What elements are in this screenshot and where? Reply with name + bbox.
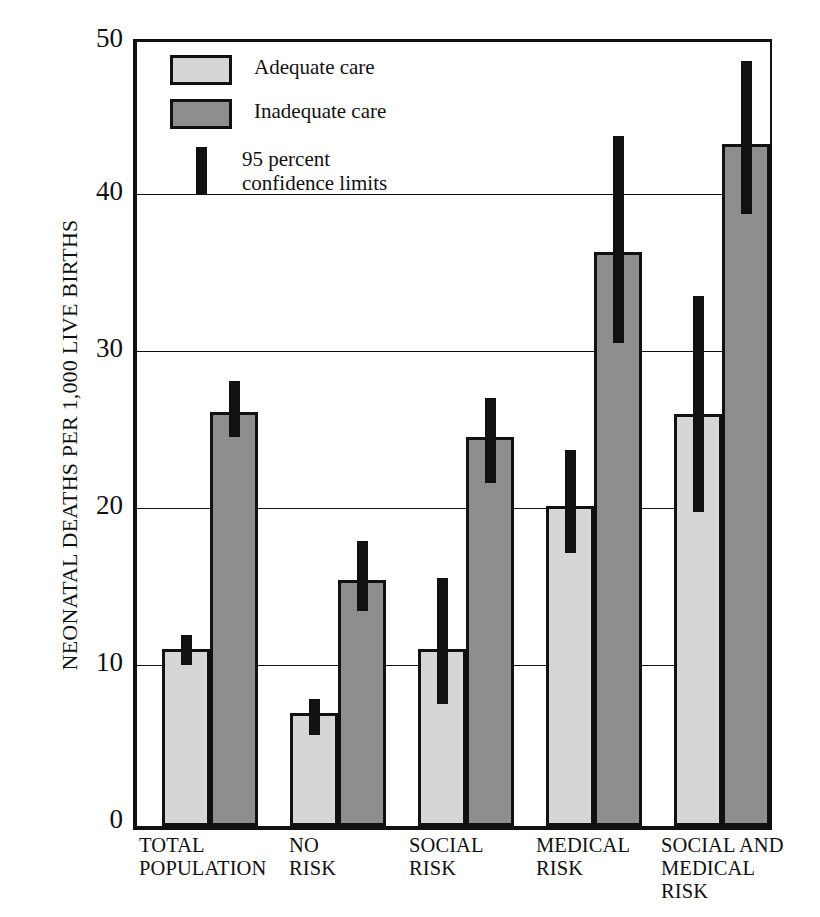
y-tick-50: 50 (96, 25, 123, 52)
x-label-no-risk: NO RISK (289, 834, 336, 880)
legend-label-adequate-care: Adequate care (254, 55, 375, 79)
error-bar-inadequate-3 (613, 136, 624, 343)
error-bar-inadequate-2 (485, 398, 496, 483)
x-label-medical-risk: MEDICAL RISK (536, 834, 630, 880)
legend-swatch-adequate-icon (170, 55, 232, 85)
legend-item-adequate-care: Adequate care (170, 55, 375, 85)
error-bar-adequate-0 (181, 635, 192, 665)
error-bar-adequate-4 (693, 296, 704, 512)
x-label-social-and-medical-risk: SOCIAL AND MEDICAL RISK (661, 834, 784, 903)
legend-swatch-inadequate-icon (170, 99, 232, 129)
y-tick-40: 40 (96, 178, 123, 205)
y-tick-30: 30 (96, 335, 123, 362)
bar-inadequate-1 (338, 580, 386, 826)
x-label-total-population: TOTAL POPULATION (139, 834, 266, 880)
error-bar-adequate-1 (309, 699, 320, 735)
y-tick-20: 20 (96, 492, 123, 519)
error-bar-adequate-2 (437, 578, 448, 703)
x-axis-tick-labels: TOTAL POPULATION NO RISK SOCIAL RISK MED… (0, 834, 820, 917)
x-label-social-risk: SOCIAL RISK (409, 834, 484, 880)
legend-item-confidence-limits: 95 percent confidence limits (170, 147, 387, 195)
y-tick-0: 0 (110, 806, 124, 833)
y-tick-10: 10 (96, 649, 123, 676)
chart-figure: NEONATAL DEATHS PER 1,000 LIVE BIRTHS 50… (0, 0, 820, 917)
error-bar-inadequate-0 (229, 381, 240, 437)
bar-inadequate-4 (722, 144, 770, 826)
bar-inadequate-0 (210, 412, 258, 826)
error-bar-adequate-3 (565, 450, 576, 553)
legend-confidence-bar-icon (196, 147, 207, 195)
bar-adequate-0 (162, 649, 210, 826)
legend-label-inadequate-care: Inadequate care (254, 99, 386, 123)
error-bar-inadequate-1 (357, 541, 368, 612)
gridline-30 (137, 351, 770, 352)
legend-item-inadequate-care: Inadequate care (170, 99, 386, 129)
y-axis-tick-labels: 50 40 30 20 10 0 (0, 0, 133, 917)
legend-label-confidence-limits: 95 percent confidence limits (242, 147, 387, 195)
bar-adequate-3 (546, 506, 594, 826)
error-bar-inadequate-4 (741, 61, 752, 215)
bar-inadequate-2 (466, 437, 514, 826)
